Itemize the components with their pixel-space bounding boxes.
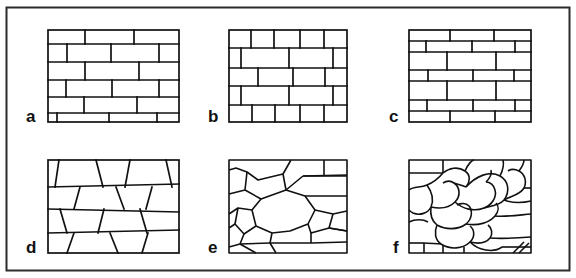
panel-f-joint (424, 243, 441, 244)
masonry-pattern-figure: a b c d e f (0, 0, 576, 278)
panel-label-d: d (26, 238, 36, 257)
panel-label-f: f (393, 238, 399, 257)
panel-e-joint (240, 243, 270, 244)
panel-label-c: c (389, 107, 398, 126)
panel-label-a: a (26, 107, 36, 126)
figure-root: a b c d e f (0, 0, 576, 278)
panel-label-b: b (208, 107, 218, 126)
panel-label-e: e (208, 238, 217, 257)
